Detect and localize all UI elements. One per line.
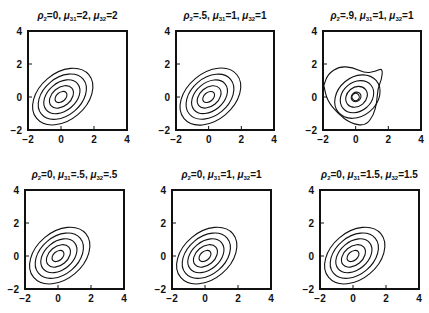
panel-title: ρ2=0, μ31=2, μ32=2 [3, 10, 153, 22]
y-tick-label: 2 [13, 218, 19, 229]
y-tick-label: −2 [306, 125, 318, 136]
x-tick-label: 0 [350, 293, 356, 304]
y-tick-label: 0 [164, 92, 170, 103]
y-tick-label: 4 [13, 185, 19, 196]
y-tick-label: 4 [160, 185, 166, 196]
y-tick-label: 2 [164, 59, 170, 70]
y-tick-label: −2 [155, 284, 167, 295]
x-tick-label: 2 [235, 293, 241, 304]
x-tick-label: −2 [19, 293, 31, 304]
mu31-subscript: 31 [64, 175, 71, 181]
contour-panel-6: −2−2002244 [300, 170, 429, 309]
panel-title: ρ2=.5, μ31=1, μ32=1 [150, 10, 300, 22]
rho-value: .9 [346, 10, 354, 21]
rho-value: 0 [47, 169, 53, 180]
panel-title: ρ2=0, μ31=.5, μ32=.5 [0, 169, 150, 181]
x-tick-label: 2 [386, 134, 392, 145]
mu32-subscript: 32 [392, 175, 399, 181]
x-tick-label: 4 [416, 293, 422, 304]
rho-subscript: 2 [190, 16, 193, 22]
contour-lines [314, 216, 396, 296]
y-tick-label: 4 [308, 185, 314, 196]
mu32-subscript: 32 [244, 175, 251, 181]
rho-value: 0 [53, 10, 59, 21]
contour-plot-grid: −2−2002244ρ2=0, μ31=2, μ32=2−2−2002244ρ2… [0, 0, 429, 313]
contour-lines [169, 56, 252, 136]
y-tick-label: 2 [308, 218, 314, 229]
y-tick-label: 0 [160, 251, 166, 262]
mu31-subscript: 31 [214, 175, 221, 181]
y-tick-label: 2 [16, 59, 22, 70]
x-tick-label: 2 [91, 134, 97, 145]
mu32-subscript: 32 [97, 175, 104, 181]
mu32-subscript: 32 [395, 16, 402, 22]
contour-panel-4: −2−2002244 [5, 170, 144, 309]
x-tick-label: 2 [383, 293, 389, 304]
contour-panel-3: −2−2002244 [303, 11, 429, 150]
contour-panel-1: −2−2002244 [8, 11, 147, 150]
panel-title: ρ2=0, μ31=1.5, μ32=1.5 [295, 169, 429, 181]
contour-lines [324, 66, 389, 127]
y-tick-label: 2 [311, 59, 317, 70]
x-tick-label: 2 [88, 293, 94, 304]
x-tick-label: −2 [170, 134, 182, 145]
panel-title: ρ2=.9, μ31=1, μ32=1 [297, 10, 429, 22]
y-tick-label: 4 [311, 26, 317, 37]
x-tick-label: −2 [22, 134, 34, 145]
mu32-value: 2 [112, 10, 118, 21]
rho-subscript: 2 [187, 175, 190, 181]
rho-value: .5 [199, 10, 207, 21]
y-tick-label: −2 [303, 284, 315, 295]
contour-panel-2: −2−2002244 [156, 11, 294, 150]
y-tick-label: −2 [159, 125, 171, 136]
rho-subscript: 2 [38, 175, 41, 181]
y-tick-label: 0 [13, 251, 19, 262]
y-tick-label: 4 [16, 26, 22, 37]
mu31-value: 1 [231, 10, 237, 21]
x-tick-label: −2 [314, 293, 326, 304]
mu32-value: .5 [109, 169, 117, 180]
rho-value: 0 [336, 169, 342, 180]
x-tick-label: 4 [271, 134, 277, 145]
y-tick-label: 0 [16, 92, 22, 103]
rho-subscript: 2 [337, 16, 340, 22]
mu31-value: 1.5 [366, 169, 380, 180]
mu32-value: 1 [408, 10, 414, 21]
y-tick-label: 2 [160, 218, 166, 229]
contour-lines [22, 57, 104, 137]
mu32-subscript: 32 [100, 16, 107, 22]
rho-value: 0 [197, 169, 203, 180]
contour-lines [19, 216, 101, 296]
x-tick-label: 2 [239, 134, 245, 145]
plot-frame [323, 31, 421, 130]
rho-subscript: 2 [327, 175, 330, 181]
mu31-value: 1 [378, 10, 384, 21]
y-tick-label: 4 [164, 26, 170, 37]
contour-lines [166, 216, 248, 296]
x-tick-label: −2 [317, 134, 329, 145]
mu31-subscript: 31 [353, 175, 360, 181]
x-tick-label: 0 [353, 134, 359, 145]
mu31-value: 2 [82, 10, 88, 21]
x-tick-label: 4 [121, 293, 127, 304]
mu31-value: 1 [226, 169, 232, 180]
mu32-subscript: 32 [248, 16, 255, 22]
mu31-value: .5 [77, 169, 85, 180]
mu31-subscript: 31 [70, 16, 77, 22]
x-tick-label: 4 [268, 293, 274, 304]
contour-panel-5: −2−2002244 [152, 170, 291, 309]
x-tick-label: 0 [206, 134, 212, 145]
y-tick-label: −2 [11, 125, 23, 136]
x-tick-label: 0 [55, 293, 61, 304]
y-tick-label: 0 [311, 92, 317, 103]
x-tick-label: 0 [202, 293, 208, 304]
mu31-subscript: 31 [219, 16, 226, 22]
x-tick-label: −2 [166, 293, 178, 304]
panel-title: ρ2=0, μ31=1, μ32=1 [147, 169, 297, 181]
mu32-value: 1.5 [404, 169, 418, 180]
y-tick-label: 0 [308, 251, 314, 262]
rho-subscript: 2 [43, 16, 46, 22]
mu32-value: 1 [256, 169, 262, 180]
mu31-subscript: 31 [366, 16, 373, 22]
x-tick-label: 4 [418, 134, 424, 145]
